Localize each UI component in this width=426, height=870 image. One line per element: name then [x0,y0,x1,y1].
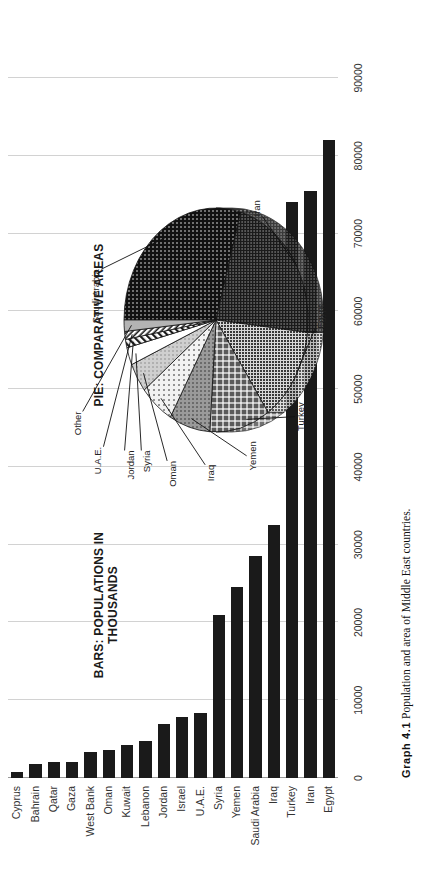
axis-tick-label: 80000 [352,141,364,170]
category-label: Iran [304,786,316,870]
axis-tick-label: 0 [352,775,364,781]
figure-canvas: 0100002000030000400005000060000700008000… [0,0,426,870]
caption-number: Graph 4.1 [400,722,412,778]
axis-tick-label: 90000 [352,63,364,92]
category-label: West Bank [84,786,96,870]
category-label: Qatar [47,786,59,870]
pie-slice-label: Turkey [295,402,306,431]
category-label: U.A.E. [194,786,206,870]
category-label: Turkey [285,786,297,870]
axis-tick-label: 40000 [352,452,364,481]
bar [121,745,133,778]
category-label: Cyprus [10,786,22,870]
bar [29,764,41,778]
bar [213,615,225,778]
bars-title-line-2: THOUSANDS [106,490,120,720]
bar [48,762,60,778]
bar [11,772,23,778]
pie-slice-label: U.A.E. [92,447,103,474]
bar [66,762,78,778]
caption-text: Population and area of Middle East count… [400,509,412,719]
figure-page: 0100002000030000400005000060000700008000… [0,0,426,870]
axis-tick-label: 50000 [352,375,364,404]
bar [194,713,206,778]
bar [139,741,151,778]
category-label: Jordan [157,786,169,870]
category-label: Saudi Arabia [249,786,261,870]
bar [231,587,243,778]
category-label: Iraq [267,786,279,870]
category-label: Lebanon [139,786,151,870]
bar [84,752,96,778]
figure-caption: Graph 4.1 Population and area of Middle … [400,509,412,779]
category-label: Yemen [230,786,242,870]
bars-chart-title: BARS: POPULATIONS IN THOUSANDS [92,490,120,720]
pie-slice-label: Other [72,411,83,435]
category-label: Kuwait [120,786,132,870]
pie-slice-label: Oman [167,461,178,487]
axis-tick-label: 30000 [352,530,364,559]
category-label: Oman [102,786,114,870]
category-label: Syria [212,786,224,870]
pie-slice-label: Yemen [247,441,258,470]
bar [176,717,188,778]
category-label: Gaza [65,786,77,870]
pie-svg [112,172,342,472]
axis-tick-label: 10000 [352,686,364,715]
category-label: Israel [175,786,187,870]
axis-tick-label: 60000 [352,297,364,326]
bar [249,556,261,778]
category-label: Bahrain [29,786,41,870]
pie-slice-label: Egypt [315,305,326,329]
pie-slice-label: Saudi Arabia [90,269,101,323]
pie-slice-label: Iran [251,200,262,216]
bar [103,750,115,778]
bar [158,724,170,778]
pie-chart: Saudi ArabiaIranEgyptTurkeyYemenIraqOman… [112,172,342,472]
axis-tick-label: 70000 [352,219,364,248]
axis-tick-label: 20000 [352,608,364,637]
pie-slice-label: Syria [141,451,152,473]
pie-slice-label: Iraq [205,465,216,481]
bars-title-line-1: BARS: POPULATIONS IN [92,490,106,720]
bar [268,525,280,778]
category-label: Egypt [322,786,334,870]
pie-chart-title: PIE: COMPARATIVE AREAS [92,210,106,440]
pie-slice-label: Jordan [125,450,136,479]
